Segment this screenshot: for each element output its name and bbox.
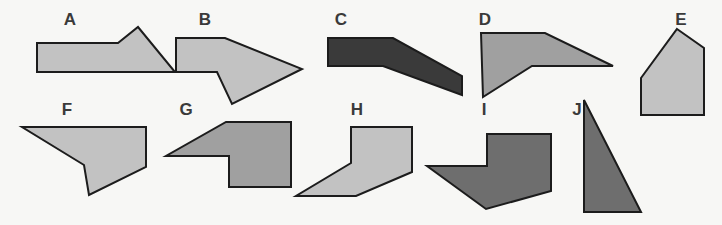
shape-label-g: G [179, 100, 192, 119]
shape-label-h: H [351, 100, 363, 119]
shape-label-d: D [479, 10, 491, 29]
shape-label-i: I [482, 100, 487, 119]
shape-label-e: E [675, 10, 686, 29]
shapes-canvas: ABCDEFGHIJ [0, 0, 722, 225]
shapes-figure: ABCDEFGHIJ [0, 0, 722, 225]
shape-label-a: A [64, 10, 76, 29]
shape-label-b: B [199, 10, 211, 29]
shape-label-c: C [335, 10, 347, 29]
shape-label-j: J [572, 100, 581, 119]
shape-label-f: F [62, 100, 72, 119]
